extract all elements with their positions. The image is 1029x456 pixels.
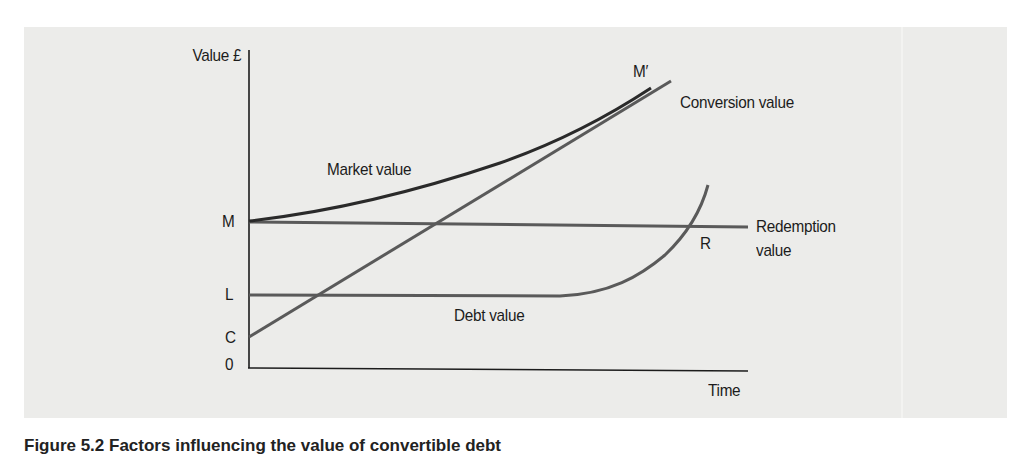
redemption-value-line xyxy=(249,222,748,227)
y-axis-label: Value £ xyxy=(192,47,241,64)
redemption-value-label-line2: value xyxy=(756,242,791,259)
tick-m: M xyxy=(222,213,234,230)
tick-zero: 0 xyxy=(225,356,233,373)
market-value-curve xyxy=(249,88,651,221)
conversion-value-label: Conversion value xyxy=(680,94,794,111)
tick-c: C xyxy=(225,329,236,346)
debt-value-label: Debt value xyxy=(454,307,524,324)
tick-l: L xyxy=(225,286,233,303)
figure-caption: Figure 5.2 Factors influencing the value… xyxy=(24,436,501,456)
m-prime-label: M′ xyxy=(633,63,648,80)
x-axis xyxy=(248,368,748,371)
debt-value-curve xyxy=(249,185,708,296)
market-value-label: Market value xyxy=(327,161,411,178)
r-point-label: R xyxy=(700,235,711,252)
conversion-value-line xyxy=(249,81,671,337)
x-axis-label: Time xyxy=(708,382,740,399)
redemption-value-label-line1: Redemption xyxy=(756,218,836,235)
